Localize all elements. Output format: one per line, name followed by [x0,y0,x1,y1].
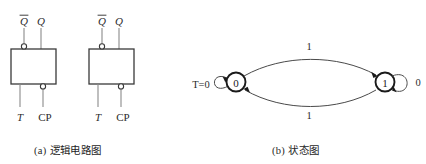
cp-input-label: CP [116,111,129,123]
q-bar-inversion-bubble [99,44,104,49]
transition-1-to-0 [245,90,376,107]
t-input-label: T [17,111,24,123]
caption-panel-a-index: (a) [34,145,47,156]
state-node-0-label: 0 [233,77,239,89]
q-bar-output-label: Q [20,15,28,27]
t-input-label: T [95,111,102,123]
caption-panel-b-index: (b) [272,145,285,156]
self-loop-state-0-label: T=0 [192,79,210,90]
logic-circuit-svg: Q Q T CP Q Q T [0,0,213,140]
flip-flop-left: Q Q T CP [11,15,56,123]
cp-inversion-bubble [40,84,45,89]
transition-0-to-1 [244,59,376,76]
cp-inversion-bubble [118,84,123,89]
caption-panel-b: (b) 状态图 [272,142,319,157]
state-diagram-svg: T=0 0 1 1 1 0 [213,0,426,140]
panel-state-diagram: T=0 0 1 1 1 0 [213,0,426,164]
flip-flop-body [11,49,56,84]
panel-logic-circuit: Q Q T CP Q Q T [0,0,213,164]
q-bar-inversion-bubble [21,44,26,49]
figure-container: Q Q T CP Q Q T [0,0,426,164]
transition-1-to-0-label: 1 [306,110,311,121]
caption-panel-a-text: 逻辑电路图 [50,144,102,156]
q-bar-output-label: Q [98,15,106,27]
state-node-1-label: 1 [382,77,388,89]
flip-flop-right: Q Q T CP [89,15,134,123]
self-loop-state-1-label: 0 [415,77,420,88]
cp-input-label: CP [38,111,51,123]
q-output-label: Q [37,15,45,27]
caption-panel-b-text: 状态图 [288,144,319,156]
flip-flop-body [89,49,134,84]
transition-0-to-1-label: 1 [306,41,311,52]
caption-panel-a: (a) 逻辑电路图 [34,142,101,157]
q-output-label: Q [115,15,123,27]
